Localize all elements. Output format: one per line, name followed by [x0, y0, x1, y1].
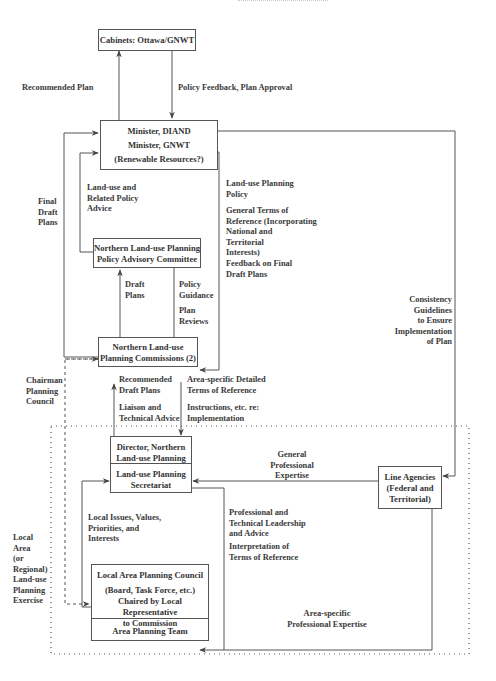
label-area-specific-expertise: Area-specific Professional Expertise: [282, 609, 372, 630]
council-section: Local Area Planning Council (Board, Task…: [92, 565, 208, 620]
director-secretariat-box: Director, Northern Land-use Planning Lan…: [110, 436, 192, 493]
label-local-issues: Local Issues, Values, Priorities, and In…: [88, 513, 161, 545]
box-label: Territorial): [379, 494, 441, 505]
box-label: Area Planning Team: [92, 626, 208, 637]
label-policy-feedback: Policy Feedback, Plan Approval: [178, 83, 292, 94]
secretariat-section: Land-use Planning Secretariat: [111, 464, 191, 491]
box-label: Land-use Planning: [111, 469, 191, 480]
label-local-area-exercise: Local Area (or Regional) Land-use Planni…: [13, 533, 47, 607]
label-draft-plans: Draft Plans: [125, 280, 145, 301]
label-interpretation: Interpretation of Terms of Reference: [229, 542, 298, 563]
line-agencies-box: Line Agencies (Federal and Territorial): [378, 466, 442, 509]
box-label: Minister, DIAND: [101, 126, 217, 137]
box-label: Director, Northern: [111, 442, 191, 453]
planning-flow-diagram: Cabinets: Ottawa/GNWT Minister, DIAND Mi…: [0, 0, 496, 681]
box-label: (Federal and: [379, 483, 441, 494]
box-label: Local Area Planning Council: [92, 570, 208, 581]
label-landuse-related-advice: Land-use and Related Policy Advice: [87, 183, 138, 215]
box-label: (Board, Task Force, etc.): [92, 585, 208, 596]
label-recommended-plan: Recommended Plan: [22, 83, 93, 94]
minister-box: Minister, DIAND Minister, GNWT (Renewabl…: [100, 120, 218, 170]
box-label: Chaired by Local Representative: [92, 596, 208, 618]
label-recommended-draft: Recommended Draft Plans: [119, 375, 172, 396]
label-general-terms: General Terms of Reference (Incorporatin…: [226, 206, 317, 259]
local-council-team-box: Local Area Planning Council (Board, Task…: [91, 564, 209, 641]
director-section: Director, Northern Land-use Planning: [111, 437, 191, 464]
box-divider: [111, 463, 191, 464]
box-label: Northern Land-use Planning: [94, 243, 200, 254]
advisory-committee-box: Northern Land-use Planning Policy Adviso…: [93, 238, 201, 268]
box-label: Northern Land-use: [99, 342, 197, 353]
box-label: Secretariat: [111, 480, 191, 491]
box-label: Cabinets: Ottawa/GNWT: [99, 35, 195, 46]
label-final-draft-plans: Final Draft Plans: [38, 197, 58, 229]
box-label: Minister, GNWT: [101, 140, 217, 151]
label-liaison: Liaison and Technical Advice: [119, 403, 179, 424]
box-label: Policy Advisory Committee: [94, 254, 200, 265]
label-consistency: Consistency Guidelines to Ensure Impleme…: [380, 295, 452, 348]
label-instructions: Instructions, etc. re: Implementation: [187, 403, 259, 424]
label-chairman: Chairman Planning Council: [26, 376, 63, 408]
label-plan-reviews: Plan Reviews: [179, 306, 208, 327]
label-landuse-policy: Land-use Planning Policy: [226, 179, 294, 200]
planning-commissions-box: Northern Land-use Planning Commissions (…: [98, 337, 198, 367]
box-label: Line Agencies: [379, 472, 441, 483]
label-general-expertise: General Professional Expertise: [262, 450, 322, 482]
box-label: Planning Commissions (2): [99, 353, 197, 364]
label-professional-leadership: Professional and Technical Leadership an…: [229, 508, 306, 540]
label-policy-guidance: Policy Guidance: [179, 280, 213, 301]
box-label: (Renewable Resources?): [101, 154, 217, 165]
label-area-specific-terms: Area-specific Detailed Terms of Referenc…: [187, 375, 266, 396]
box-divider: [92, 618, 208, 619]
label-feedback-final: Feedback on Final Draft Plans: [226, 259, 292, 280]
cabinets-box: Cabinets: Ottawa/GNWT: [98, 29, 196, 51]
